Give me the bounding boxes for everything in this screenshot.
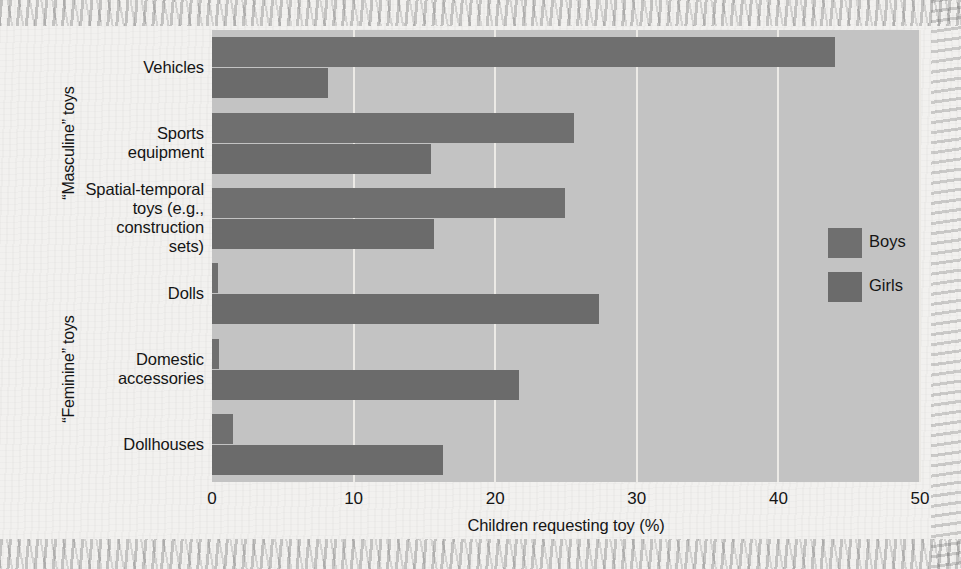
bar-girls-4 [212, 370, 519, 400]
screenshot-root: VehiclesSportsequipmentSpatial-temporalt… [0, 0, 961, 569]
bar-boys-3 [212, 263, 218, 293]
x-tick-label-20: 20 [465, 489, 525, 509]
gridline-30 [636, 30, 638, 482]
legend-label-girls: Girls [869, 276, 903, 295]
legend-entry-girls[interactable]: Girls [828, 272, 938, 316]
group-label-feminine: “Feminine” toys [60, 256, 78, 482]
bar-boys-0 [212, 37, 835, 67]
x-tick-label-0: 0 [182, 489, 242, 509]
legend-swatch-girls [828, 272, 862, 302]
bar-girls-1 [212, 144, 431, 174]
legend-entry-boys[interactable]: Boys [828, 228, 938, 272]
category-label-column: VehiclesSportsequipmentSpatial-temporalt… [26, 30, 204, 482]
bar-boys-1 [212, 113, 574, 143]
plot-area [212, 30, 920, 482]
bar-chart-figure: VehiclesSportsequipmentSpatial-temporalt… [0, 0, 961, 569]
gridline-10 [353, 30, 355, 482]
bar-girls-3 [212, 294, 599, 324]
bar-girls-0 [212, 68, 328, 98]
x-tick-label-30: 30 [607, 489, 667, 509]
legend: BoysGirls [828, 228, 938, 316]
group-label-masculine: “Masculine” toys [60, 30, 78, 256]
legend-label-boys: Boys [869, 232, 906, 251]
bar-boys-2 [212, 188, 565, 218]
bar-boys-5 [212, 414, 233, 444]
bar-boys-4 [212, 339, 219, 369]
x-tick-label-10: 10 [324, 489, 384, 509]
bar-girls-5 [212, 445, 443, 475]
gridline-20 [494, 30, 496, 482]
legend-swatch-boys [828, 228, 862, 258]
x-tick-label-40: 40 [748, 489, 808, 509]
x-tick-label-50: 50 [890, 489, 950, 509]
bar-girls-2 [212, 219, 434, 249]
x-axis-title: Children requesting toy (%) [212, 516, 920, 535]
gridline-40 [777, 30, 779, 482]
